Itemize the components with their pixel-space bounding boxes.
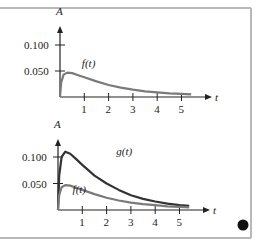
y-axis-arrow-icon xyxy=(55,139,61,146)
x-axis-label: t xyxy=(215,91,219,103)
y-axis-label: A xyxy=(55,5,63,17)
chart-f: At123450.0500.100f(t) xyxy=(24,5,219,115)
chart-f-and-g: At123450.0500.100g(t)f(t) xyxy=(22,118,217,228)
x-tick-label: 1 xyxy=(81,103,87,115)
y-axis-arrow-icon xyxy=(57,26,63,33)
y-tick-label: 0.100 xyxy=(24,39,49,51)
figure: At123450.0500.100f(t) At123450.0500.100g… xyxy=(0,0,264,250)
y-axis-label: A xyxy=(53,118,61,130)
x-tick-label: 2 xyxy=(104,216,110,228)
x-tick-label: 4 xyxy=(154,103,160,115)
x-tick-label: 4 xyxy=(152,216,158,228)
series-ft xyxy=(60,73,191,97)
y-tick-label: 0.050 xyxy=(22,178,47,190)
y-tick-label: 0.100 xyxy=(22,151,47,163)
x-axis-label: t xyxy=(213,204,217,216)
x-tick-label: 3 xyxy=(128,216,134,228)
x-axis-arrow-icon xyxy=(205,94,212,100)
x-tick-label: 3 xyxy=(130,103,136,115)
end-marker-dot xyxy=(238,220,249,231)
x-tick-label: 5 xyxy=(179,103,185,115)
x-tick-label: 2 xyxy=(106,103,112,115)
curve-label: g(t) xyxy=(116,145,132,158)
x-tick-label: 1 xyxy=(79,216,85,228)
x-axis-arrow-icon xyxy=(203,207,210,213)
y-tick-label: 0.050 xyxy=(24,65,49,77)
curve-label: f(t) xyxy=(73,183,87,196)
x-tick-label: 5 xyxy=(177,216,183,228)
curve-label: f(t) xyxy=(82,57,96,70)
